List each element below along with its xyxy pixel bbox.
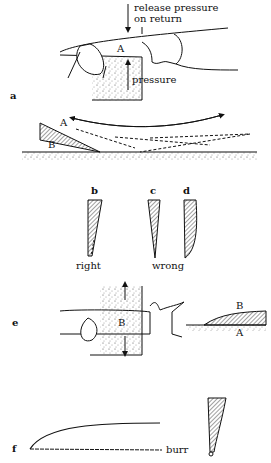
label-B-panel-e: B (118, 318, 125, 328)
figure-label-e: e (12, 317, 18, 328)
panel-f (30, 398, 226, 456)
label-pressure: pressure (132, 75, 177, 85)
figure-label-f: f (12, 443, 16, 454)
label-B-panel-a2: B (48, 140, 55, 150)
label-A-panel-a2: A (60, 118, 67, 128)
sub-label-b: b (91, 185, 98, 196)
panel-e (60, 284, 266, 355)
label-release-pressure: release pressure (134, 3, 219, 13)
figure-label-a: a (10, 90, 16, 101)
label-A-panel-e-section: A (236, 328, 243, 338)
panel-a2 (22, 115, 257, 160)
label-burr: burr (166, 445, 188, 455)
sub-label-d: d (183, 185, 190, 196)
sub-label-c: c (150, 185, 156, 196)
sharpening-illustration (0, 0, 271, 463)
label-on-return: on return (134, 14, 182, 24)
caption-right: right (76, 261, 101, 271)
panel-bcd (88, 200, 197, 258)
caption-wrong: wrong (152, 261, 184, 271)
label-A-panel-a: A (117, 44, 124, 54)
label-B-panel-e-section: B (236, 301, 243, 311)
